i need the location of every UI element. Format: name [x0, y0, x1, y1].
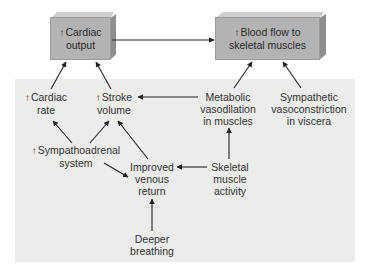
- arrow-venous-return-to-stroke-volume: [118, 121, 148, 159]
- arrow-metabolic-to-blood-flow: [234, 62, 252, 88]
- arrow-sympathoadrenal-to-cardiac-rate: [53, 121, 72, 143]
- arrow-stroke-volume-to-output: [96, 62, 111, 89]
- arrow-sympathoadrenal-to-stroke-volume: [90, 121, 109, 143]
- arrow-sympathetic-to-blood-flow: [283, 62, 301, 88]
- arrow-sympathoadrenal-to-venous-return: [104, 163, 128, 177]
- arrows-layer: [0, 0, 367, 270]
- arrow-cardiac-rate-to-output: [51, 62, 66, 89]
